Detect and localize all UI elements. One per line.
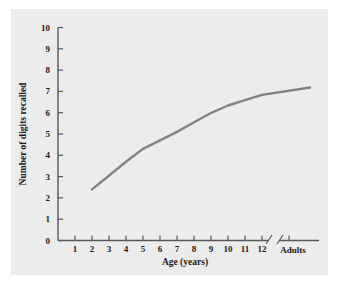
x-tick-label-2: 2 xyxy=(90,245,95,254)
y-tick-label-4: 4 xyxy=(32,151,50,160)
x-tick-label-9: 9 xyxy=(209,245,214,254)
figure-container: 0 1 2 3 4 5 6 7 8 9 10 1 2 3 4 5 6 7 8 9… xyxy=(0,0,339,284)
y-tick-label-8: 8 xyxy=(32,66,50,75)
y-tick-label-1: 1 xyxy=(32,215,50,224)
y-tick-label-5: 5 xyxy=(32,130,50,139)
x-tick-label-1: 1 xyxy=(73,245,78,254)
x-tick-label-12: 12 xyxy=(258,245,267,254)
x-tick-label-7: 7 xyxy=(175,245,180,254)
data-line-digit-span xyxy=(92,88,310,190)
y-tick-label-3: 3 xyxy=(32,172,50,181)
x-tick-label-5: 5 xyxy=(141,245,146,254)
x-tick-label-6: 6 xyxy=(158,245,163,254)
y-tick-label-0: 0 xyxy=(32,236,50,245)
y-tick-label-9: 9 xyxy=(32,44,50,53)
y-tick-label-6: 6 xyxy=(32,108,50,117)
x-tick-label-adults: Adults xyxy=(280,245,306,255)
x-tick-label-3: 3 xyxy=(107,245,112,254)
axis-break-slash-left xyxy=(266,235,272,244)
y-tick-marks xyxy=(58,28,63,241)
x-tick-marks xyxy=(75,236,289,241)
y-axis-title: Number of digits recalled xyxy=(18,83,28,186)
x-tick-label-4: 4 xyxy=(124,245,129,254)
x-tick-label-11: 11 xyxy=(241,245,250,254)
axis-break-slash-right xyxy=(277,235,283,244)
y-tick-label-7: 7 xyxy=(32,87,50,96)
x-tick-label-10: 10 xyxy=(224,245,233,254)
x-tick-label-8: 8 xyxy=(192,245,197,254)
y-tick-label-2: 2 xyxy=(32,193,50,202)
y-tick-label-10: 10 xyxy=(32,23,50,32)
chart-plot-area xyxy=(0,0,339,284)
x-axis-title: Age (years) xyxy=(162,257,208,267)
